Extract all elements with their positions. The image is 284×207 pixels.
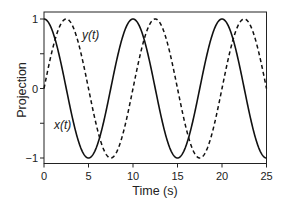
y-axis-label: Projection (15, 62, 29, 118)
x-tick-label-15: 15 (171, 170, 183, 182)
y-tick-label-1: 1 (32, 13, 38, 25)
x-tick-label-0: 0 (41, 170, 47, 182)
x-axis-label: Time (s) (132, 184, 177, 198)
x-tick-label-20: 20 (216, 170, 228, 182)
x-tick-label-10: 10 (127, 170, 139, 182)
x-tick-label-25: 25 (260, 170, 272, 182)
curve-label-y: y(t) (81, 28, 99, 42)
x-tick-label-5: 5 (85, 170, 91, 182)
curve-label-x: x(t) (53, 118, 71, 132)
y-tick-label-neg1: −1 (25, 152, 38, 164)
y-tick-label-0: 0 (32, 83, 38, 95)
y-axis (40, 19, 44, 158)
x-axis (44, 164, 267, 168)
line-chart: 1 0 −1 0 5 10 15 20 25 Time (s) Projecti… (0, 0, 284, 207)
